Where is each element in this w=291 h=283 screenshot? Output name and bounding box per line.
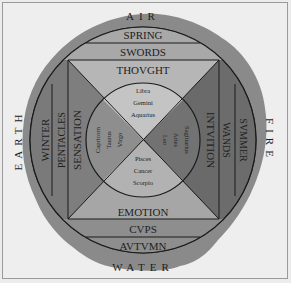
suit-pentacles: PENTACLES [56, 112, 67, 168]
element-earth: EARTH [12, 109, 24, 170]
sign-cancer: Cancer [134, 167, 153, 174]
suit-wands: WANDS [221, 122, 232, 158]
sign-gemini: Gemini [133, 99, 153, 106]
season-autumn: AVTVMN [120, 240, 167, 252]
sign-pisces: Pisces [135, 155, 152, 162]
sign-aries: Aries [173, 133, 180, 148]
function-emotion: EMOTION [118, 206, 169, 218]
sign-taurus: Taurus [105, 131, 112, 149]
suit-cups: CVPS [129, 223, 157, 235]
element-fire: FIRE [264, 118, 276, 162]
season-summer: SVMMER [238, 118, 249, 162]
element-air: AIR [126, 10, 160, 22]
sign-aquarius: Aquarius [131, 111, 155, 118]
sign-leo: Leo [162, 135, 169, 145]
sign-scorpio: Scorpio [133, 179, 153, 186]
sign-libra: Libra [136, 87, 150, 94]
sign-sagittarius: Sagittarius [184, 126, 191, 154]
suit-swords: SWORDS [120, 46, 166, 58]
elemental-wheel-diagram: AIR WATER EARTH FIRE SPRING AVTVMN WINTE… [0, 0, 291, 283]
season-winter: WINTER [39, 118, 51, 161]
function-thought: THOVGHT [116, 64, 169, 76]
sign-capricorn: Capricorn [94, 126, 101, 153]
function-sensation: SENSATION [71, 110, 83, 170]
season-spring: SPRING [123, 29, 162, 41]
element-water: WATER [112, 261, 174, 273]
function-intuition: INTVITION [205, 112, 217, 168]
sign-virgo: Virgo [116, 133, 123, 148]
